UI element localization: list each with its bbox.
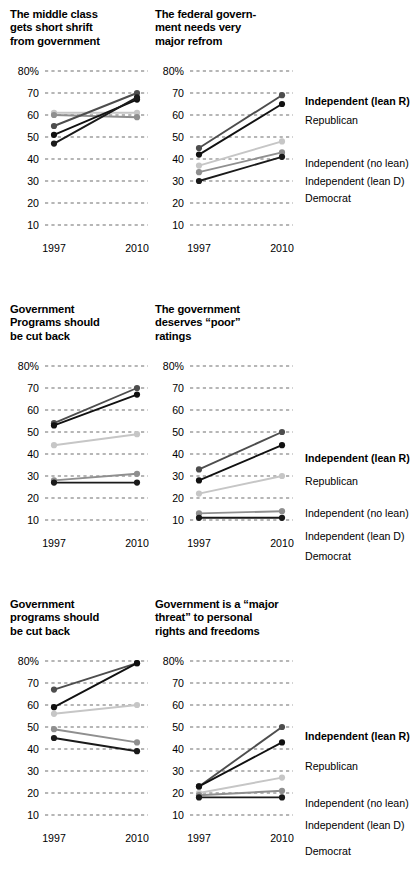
y-axis-tick-label: 10: [172, 514, 184, 526]
data-point-marker: [134, 114, 140, 120]
y-axis-tick-label: 60: [27, 699, 39, 711]
panel-4-title: The government deserves “poor” ratings: [155, 303, 305, 343]
y-axis-tick-label: 70: [172, 677, 184, 689]
y-axis-tick-label: 20: [172, 787, 184, 799]
y-axis-tick-label: 80%: [18, 360, 40, 372]
y-axis-tick-label: 40: [172, 153, 184, 165]
panel-4-svg: 80%7060504030201019972010: [155, 343, 305, 558]
panel-6: Government is a “major threat” to person…: [155, 598, 305, 853]
y-axis-tick-label: 40: [27, 448, 39, 460]
data-point-marker: [279, 154, 285, 160]
x-axis-tick-label: 2010: [125, 832, 149, 844]
data-point-marker: [196, 491, 202, 497]
y-axis-tick-label: 60: [172, 109, 184, 121]
data-point-marker: [196, 467, 202, 473]
data-point-marker: [279, 473, 285, 479]
x-axis-tick-label: 2010: [125, 537, 149, 549]
y-axis-tick-label: 40: [172, 448, 184, 460]
legend-item-1: Independent (lean R): [305, 96, 410, 107]
data-point-marker: [134, 702, 140, 708]
y-axis-tick-label: 70: [27, 382, 39, 394]
data-point-marker: [196, 478, 202, 484]
y-axis-tick-label: 30: [27, 765, 39, 777]
panel-4-plot: 80%7060504030201019972010: [155, 343, 305, 558]
y-axis-tick-label: 80%: [18, 655, 40, 667]
y-axis-tick-label: 20: [27, 197, 39, 209]
y-axis-tick-label: 30: [27, 470, 39, 482]
y-axis-tick-label: 20: [27, 492, 39, 504]
panel-3-plot: 80%7060504030201019972010: [10, 343, 160, 558]
y-axis-tick-label: 50: [27, 131, 39, 143]
data-point-marker: [134, 660, 140, 666]
y-axis-tick-label: 60: [27, 109, 39, 121]
data-point-marker: [279, 101, 285, 107]
panel-5-plot: 80%7060504030201019972010: [10, 638, 160, 853]
panel-5-title: Government programs should be cut back: [10, 598, 160, 638]
y-axis-tick-label: 30: [172, 175, 184, 187]
y-axis-tick-label: 50: [27, 721, 39, 733]
panel-5: Government programs should be cut back 8…: [10, 598, 160, 853]
data-point-marker: [279, 788, 285, 794]
data-point-marker: [51, 735, 57, 741]
series-line: [54, 388, 137, 423]
y-axis-tick-label: 80%: [163, 65, 185, 77]
y-axis-tick-label: 40: [27, 153, 39, 165]
data-point-marker: [134, 392, 140, 398]
panel-1: The middle class gets short shrift from …: [10, 8, 160, 263]
panel-3-svg: 80%7060504030201019972010: [10, 343, 160, 558]
x-axis-tick-label: 1997: [42, 242, 66, 254]
y-axis-tick-label: 60: [27, 404, 39, 416]
legend-item-4: Independent (lean D): [305, 176, 405, 187]
y-axis-tick-label: 60: [172, 699, 184, 711]
panel-6-title: Government is a “major threat” to person…: [155, 598, 305, 638]
legend-item-5: Democrat: [305, 551, 351, 562]
data-point-marker: [196, 169, 202, 175]
data-point-marker: [279, 508, 285, 514]
x-axis-tick-label: 1997: [42, 832, 66, 844]
x-axis-tick-label: 1997: [187, 242, 211, 254]
legend-item-5: Democrat: [305, 846, 351, 857]
x-axis-tick-label: 2010: [125, 242, 149, 254]
y-axis-tick-label: 60: [172, 404, 184, 416]
y-axis-tick-label: 50: [172, 131, 184, 143]
panel-2: The federal govern- ment needs very majo…: [155, 8, 305, 263]
y-axis-tick-label: 50: [27, 426, 39, 438]
y-axis-tick-label: 10: [172, 219, 184, 231]
panel-6-svg: 80%7060504030201019972010: [155, 638, 305, 853]
y-axis-tick-label: 40: [27, 743, 39, 755]
data-point-marker: [134, 431, 140, 437]
data-point-marker: [134, 95, 140, 101]
x-axis-tick-label: 1997: [187, 537, 211, 549]
y-axis-tick-label: 20: [172, 197, 184, 209]
y-axis-tick-label: 40: [172, 743, 184, 755]
series-line: [54, 434, 137, 445]
x-axis-tick-label: 2010: [270, 537, 294, 549]
y-axis-tick-label: 20: [27, 787, 39, 799]
data-point-marker: [196, 178, 202, 184]
series-line: [199, 511, 282, 513]
series-line: [199, 727, 282, 786]
y-axis-tick-label: 10: [27, 514, 39, 526]
panel-4: The government deserves “poor” ratings 8…: [155, 303, 305, 558]
legend-item-3: Independent (no lean): [305, 508, 409, 519]
y-axis-tick-label: 30: [172, 470, 184, 482]
y-axis-tick-label: 80%: [18, 65, 40, 77]
y-axis-tick-label: 70: [172, 87, 184, 99]
data-point-marker: [279, 92, 285, 98]
data-point-marker: [51, 480, 57, 486]
legend-item-2: Republican: [305, 115, 358, 126]
data-point-marker: [134, 740, 140, 746]
y-axis-tick-label: 70: [27, 677, 39, 689]
data-point-marker: [196, 784, 202, 790]
data-point-marker: [51, 687, 57, 693]
data-point-marker: [51, 423, 57, 429]
x-axis-tick-label: 1997: [42, 537, 66, 549]
data-point-marker: [51, 726, 57, 732]
series-line: [54, 705, 137, 714]
panel-1-title: The middle class gets short shrift from …: [10, 8, 160, 48]
y-axis-tick-label: 20: [172, 492, 184, 504]
y-axis-tick-label: 70: [172, 382, 184, 394]
data-point-marker: [279, 139, 285, 145]
y-axis-tick-label: 50: [172, 721, 184, 733]
